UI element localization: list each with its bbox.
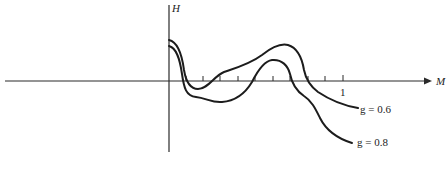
curve-g-0-8 <box>169 46 352 143</box>
curve-label-g-0-8: g = 0.8 <box>357 136 388 148</box>
h-axis-label: H <box>171 2 181 14</box>
m-axis-ticks <box>186 75 343 81</box>
m-axis-arrow-icon <box>424 78 432 85</box>
curve-label-g-0-6: g = 0.6 <box>360 103 391 115</box>
m-tick-label-1: 1 <box>340 86 346 98</box>
diagram-canvas: H M 1 g = 0.6 g = 0.8 <box>0 0 447 169</box>
m-axis-label: M <box>435 75 446 87</box>
